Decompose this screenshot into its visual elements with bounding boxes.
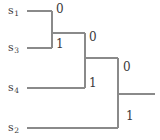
leaf-symbol-s1: s — [8, 4, 14, 17]
leaf-label-s3: s3 — [8, 42, 19, 55]
leaf-symbol-s4: s — [8, 81, 14, 94]
leaf-label-s1: s1 — [8, 5, 19, 18]
edge-label-e-n3-1: 1 — [126, 110, 134, 122]
leaf-symbol-s2: s — [8, 121, 14, 134]
leaf-subscript-s2: 2 — [14, 126, 19, 135]
edge-label-e-n2-1: 1 — [89, 77, 97, 89]
leaf-subscript-s4: 4 — [14, 86, 19, 95]
leaf-label-s4: s4 — [8, 82, 19, 95]
edge-label-e-n1-0: 0 — [56, 3, 64, 15]
tree-edges-svg — [0, 0, 160, 140]
leaf-subscript-s3: 3 — [14, 46, 19, 55]
coding-tree-diagram: s1s3s4s2 010101 — [0, 0, 160, 140]
edge-label-e-n1-1: 1 — [56, 38, 64, 50]
leaf-label-s2: s2 — [8, 122, 19, 135]
leaf-symbol-s3: s — [8, 41, 14, 54]
leaf-subscript-s1: 1 — [14, 9, 19, 18]
edge-lines-group — [27, 11, 155, 128]
edge-label-e-n3-0: 0 — [123, 61, 131, 73]
edge-label-e-n2-0: 0 — [89, 31, 97, 43]
